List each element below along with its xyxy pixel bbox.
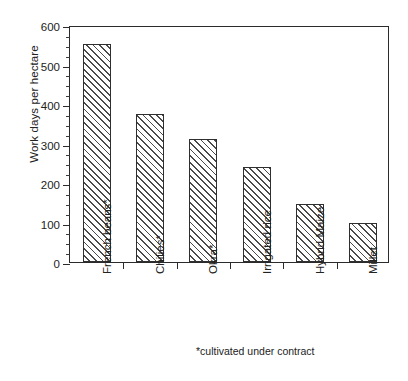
y-axis-tick [63, 106, 70, 107]
chart-footnote: *cultivated under contract [196, 345, 314, 357]
x-axis-label: Okra* [207, 245, 219, 274]
x-axis-tick [123, 262, 124, 269]
y-axis-tick-label: 500 [41, 61, 60, 73]
x-axis-tick [337, 262, 338, 269]
y-axis-minor-tick [66, 116, 70, 117]
x-axis-label: Hybrid Maize [314, 207, 326, 274]
y-axis-tick-label: 100 [41, 219, 60, 231]
y-axis-tick-label: 400 [41, 100, 60, 112]
chart-root: Work days per hectare 010020030040050060… [0, 0, 408, 381]
y-axis-minor-tick [66, 205, 70, 206]
x-axis-tick [283, 262, 284, 269]
plot-area: 0100200300400500600 [69, 26, 389, 263]
x-axis-label: Irrigated rice [261, 210, 273, 274]
x-axis-label: Millet [367, 247, 379, 274]
y-axis-minor-tick [66, 254, 70, 255]
y-axis-tick-label: 0 [54, 258, 60, 270]
y-axis-tick-label: 300 [41, 140, 60, 152]
x-axis-tick [230, 262, 231, 269]
y-axis-minor-tick [66, 195, 70, 196]
y-axis-minor-tick [66, 57, 70, 58]
y-axis-minor-tick [66, 155, 70, 156]
y-axis-minor-tick [66, 47, 70, 48]
y-axis-minor-tick [66, 96, 70, 97]
y-axis-tick-label: 600 [41, 21, 60, 33]
y-axis-minor-tick [66, 234, 70, 235]
y-axis-tick-label: 200 [41, 179, 60, 191]
y-axis-minor-tick [66, 37, 70, 38]
y-axis-minor-tick [66, 136, 70, 137]
y-axis-tick [63, 67, 70, 68]
y-axis-minor-tick [66, 126, 70, 127]
y-axis-minor-tick [66, 215, 70, 216]
x-axis-label: Chilies* [154, 235, 166, 274]
y-axis-title: Work days per hectare [28, 4, 40, 204]
y-axis-minor-tick [66, 244, 70, 245]
y-axis-minor-tick [66, 76, 70, 77]
y-axis-tick [63, 225, 70, 226]
plot-inner: 0100200300400500600 [70, 27, 388, 262]
x-axis-tick [177, 262, 178, 269]
y-axis-tick [63, 27, 70, 28]
y-axis-tick [63, 185, 70, 186]
y-axis-minor-tick [66, 165, 70, 166]
y-axis-tick [63, 146, 70, 147]
y-axis-minor-tick [66, 175, 70, 176]
y-axis-minor-tick [66, 86, 70, 87]
x-axis-label: French beans* [101, 199, 113, 274]
y-axis-tick [63, 264, 70, 265]
bar [189, 139, 217, 262]
